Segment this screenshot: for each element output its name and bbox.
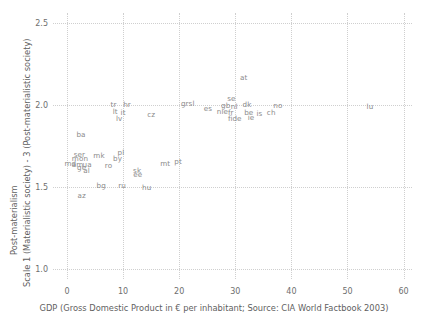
data-point-label: hu	[142, 184, 151, 191]
y-axis-title-outer: Post-materialism	[9, 185, 19, 255]
gridline-vertical	[404, 13, 405, 279]
gridline-vertical	[67, 13, 68, 279]
data-point-label: ro	[105, 162, 112, 169]
x-axis-title: GDP (Gross Domestic Product in € per inh…	[0, 303, 428, 313]
data-point-label: at	[240, 74, 247, 81]
gridline-horizontal	[53, 269, 412, 270]
x-tick-label: 20	[174, 287, 184, 296]
data-point-label: de	[232, 116, 241, 123]
gridline-vertical	[291, 13, 292, 279]
data-point-label: az	[77, 193, 85, 200]
x-tick-label: 30	[230, 287, 240, 296]
data-point-label: no	[273, 102, 282, 109]
gridline-vertical	[179, 13, 180, 279]
data-point-label: ee	[133, 172, 142, 179]
data-point-label: ru	[118, 183, 126, 190]
x-tick-label: 10	[118, 287, 128, 296]
x-tick-label: 0	[64, 287, 69, 296]
gridline-horizontal	[53, 23, 412, 24]
data-point-label: mk	[93, 152, 104, 159]
y-tick-label: 2.5	[28, 18, 48, 27]
data-point-label: hr	[123, 101, 131, 108]
data-point-label: is	[256, 110, 262, 117]
data-point-label: pt	[174, 159, 182, 166]
data-point-label: se	[227, 96, 235, 103]
x-tick-label: 40	[286, 287, 296, 296]
gridline-horizontal	[53, 187, 412, 188]
data-point-label: sl	[189, 101, 195, 108]
data-point-label: bg	[97, 182, 106, 189]
data-point-label: mt	[160, 160, 170, 167]
data-point-label: gr	[181, 101, 189, 108]
data-point-label: es	[204, 105, 212, 112]
data-point-label: ie	[248, 115, 255, 122]
y-axis-title-inner: Scale 1 (Materialistic society) - 3 (Pos…	[22, 38, 32, 287]
plot-area: sermonmdamgeuaalbaazmkbgrobyplrultlvittr…	[53, 13, 412, 279]
data-point-label: ch	[267, 109, 276, 116]
gridline-vertical	[347, 13, 348, 279]
data-point-label: al	[83, 168, 90, 175]
data-point-label: ba	[76, 131, 85, 138]
scatter-chart-figure: sermonmdamgeuaalbaazmkbgrobyplrultlvittr…	[0, 0, 428, 322]
x-tick-label: 60	[398, 287, 408, 296]
data-point-label: it	[121, 110, 126, 117]
data-point-label: tr	[111, 101, 117, 108]
x-tick-label: 50	[342, 287, 352, 296]
data-point-label: nl	[231, 104, 238, 111]
data-point-label: cz	[147, 111, 155, 118]
data-point-label: pl	[117, 149, 124, 156]
gridline-vertical	[235, 13, 236, 279]
data-point-label: lu	[367, 104, 374, 111]
gridline-vertical	[123, 13, 124, 279]
